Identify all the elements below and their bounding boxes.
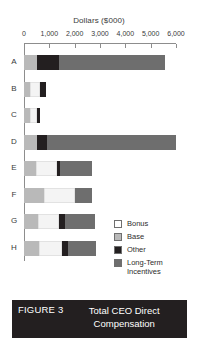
x-tick-mark (151, 44, 152, 48)
figure-caption-tag: FIGURE 3 (18, 304, 63, 315)
stacked-bar (24, 241, 96, 256)
bar-segment (24, 188, 44, 203)
bar-segment (36, 161, 57, 176)
bar-row: D (0, 130, 198, 156)
stacked-bar (24, 214, 95, 229)
x-axis-tick-labels: 01,0002,0003,0004,0005,0006,000 (0, 30, 198, 41)
x-tick-label: 0 (22, 30, 26, 37)
bar-segment (65, 214, 95, 229)
bar-segment (38, 214, 60, 229)
x-tick-mark (75, 44, 76, 48)
x-tick-label: 2,000 (66, 30, 84, 37)
x-tick-mark (125, 44, 126, 48)
bar-row: E (0, 156, 198, 182)
bar-segment (37, 135, 47, 150)
legend-item: Base (114, 231, 198, 244)
bar-segment (47, 135, 176, 150)
stacked-bar (24, 82, 46, 97)
chart-legend: BonusBaseOtherLong-Term Incentives (114, 218, 198, 279)
x-tick-label: 1,000 (41, 30, 59, 37)
bar-row: B (0, 77, 198, 103)
bar-segment (39, 241, 62, 256)
x-axis-title: Dollars ($000) (0, 16, 198, 25)
legend-item: Long-Term Incentives (114, 257, 198, 279)
x-tick-label: 6,000 (167, 30, 185, 37)
figure-total-ceo-direct-compensation: Dollars ($000) 01,0002,0003,0004,0005,00… (0, 0, 198, 347)
x-axis-tick-marks (0, 44, 198, 48)
bar-segment (60, 161, 92, 176)
bar-segment (37, 55, 60, 70)
stacked-bar (24, 161, 92, 176)
y-axis-category-label: D (8, 137, 20, 146)
bar-segment (40, 82, 45, 97)
y-axis-category-label: H (8, 243, 20, 252)
bar-segment (24, 135, 37, 150)
x-tick-mark (49, 44, 50, 48)
bar-row: C (0, 103, 198, 129)
y-axis-category-label: B (8, 84, 20, 93)
legend-label: Long-Term Incentives (127, 258, 163, 276)
legend-label: Base (127, 232, 144, 241)
bar-row: A (0, 50, 198, 76)
stacked-bar (24, 55, 165, 70)
legend-swatch (114, 259, 122, 267)
x-tick-mark (100, 44, 101, 48)
legend-swatch (114, 246, 122, 254)
bar-segment (24, 161, 36, 176)
x-tick-mark (176, 44, 177, 48)
bar-segment (59, 55, 164, 70)
bar-segment (30, 82, 40, 97)
figure-caption: FIGURE 3 Total CEO Direct Compensation (12, 300, 187, 338)
x-tick-label: 5,000 (142, 30, 160, 37)
y-axis-category-label: A (8, 57, 20, 66)
figure-caption-text: Total CEO Direct Compensation (63, 304, 181, 330)
x-tick-label: 3,000 (91, 30, 109, 37)
bar-segment (37, 108, 41, 123)
y-axis-category-label: G (8, 216, 20, 225)
y-axis-category-label: C (8, 110, 20, 119)
bar-segment (44, 188, 74, 203)
legend-label: Bonus (127, 219, 148, 228)
bar-row: F (0, 183, 198, 209)
stacked-bar (24, 135, 176, 150)
legend-item: Bonus (114, 218, 198, 231)
legend-swatch (114, 220, 122, 228)
stacked-bar (24, 188, 92, 203)
legend-swatch (114, 233, 122, 241)
bar-segment (68, 241, 96, 256)
y-axis-category-label: E (8, 163, 20, 172)
x-tick-label: 4,000 (117, 30, 135, 37)
y-axis-category-label: F (8, 190, 20, 199)
stacked-bar (24, 108, 40, 123)
bar-segment (24, 214, 38, 229)
bar-segment (75, 188, 93, 203)
legend-item: Other (114, 244, 198, 257)
legend-label: Other (127, 245, 146, 254)
bar-segment (24, 55, 37, 70)
bar-segment (24, 241, 39, 256)
